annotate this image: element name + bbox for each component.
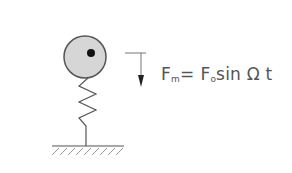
force-subscript-m: m (171, 74, 180, 84)
spring (79, 78, 96, 146)
force-arrow (125, 53, 146, 87)
arrow-down-icon (138, 75, 144, 87)
spring-mass-diagram (0, 0, 292, 173)
equals-sign: = (180, 64, 194, 84)
force-formula: Fm=Fosin Ω t (161, 64, 272, 84)
amplitude-symbol: F (200, 64, 210, 84)
mass-center-dot (87, 49, 95, 57)
sin-function: sin (216, 64, 241, 84)
mass (64, 36, 106, 78)
omega-symbol: Ω (247, 64, 260, 84)
mass-circle (64, 36, 106, 78)
force-symbol: F (161, 64, 171, 84)
ground (52, 146, 124, 155)
time-symbol: t (266, 64, 273, 84)
